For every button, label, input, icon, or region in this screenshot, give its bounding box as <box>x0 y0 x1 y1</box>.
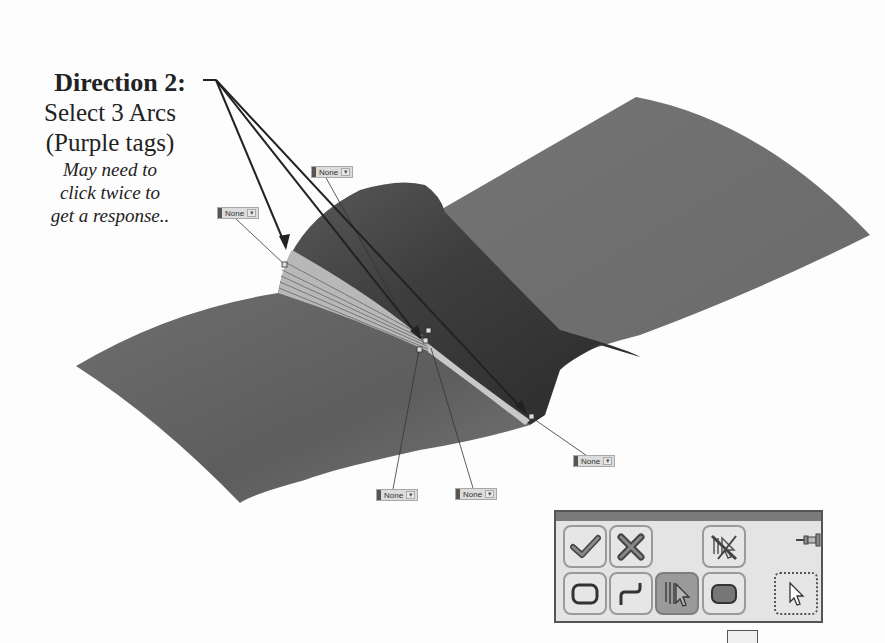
ok-button[interactable] <box>563 525 607 568</box>
toolbar-titlebar[interactable] <box>556 512 821 521</box>
tag-label: None <box>580 457 603 466</box>
region-button[interactable] <box>702 572 746 615</box>
chevron-down-icon[interactable]: ▼ <box>247 209 256 217</box>
connector-tag-bottom-left[interactable]: None ▼ <box>376 489 418 501</box>
callout-note-3: get a response.. <box>0 204 220 227</box>
checkmark-icon <box>569 534 601 560</box>
tag-label: None <box>224 209 247 218</box>
tag-color-swatch <box>218 208 222 218</box>
connector-tag-left[interactable]: None ▼ <box>217 207 259 219</box>
pointer-icon <box>783 579 809 609</box>
no-select-icon <box>708 532 740 562</box>
connector-tag-right[interactable]: None ▼ <box>573 455 615 467</box>
connector-tag-top[interactable]: None ▼ <box>311 166 353 178</box>
callout-line-2: (Purple tags) <box>0 128 220 158</box>
tag-color-swatch <box>377 490 381 500</box>
chevron-down-icon[interactable]: ▼ <box>485 490 494 498</box>
x-icon <box>616 533 646 561</box>
tag-color-swatch <box>574 456 578 466</box>
partial-button-below-toolbar <box>727 630 758 643</box>
standard-select-button[interactable] <box>774 572 818 615</box>
connector-tag-bottom-mid[interactable]: None ▼ <box>455 488 497 500</box>
chevron-down-icon[interactable]: ▼ <box>341 168 350 176</box>
callout-title: Direction 2: <box>10 68 230 98</box>
direction-2-callout: Direction 2: Select 3 Arcs (Purple tags)… <box>0 68 220 227</box>
multi-select-icon <box>661 578 693 610</box>
callout-note-1: May need to <box>0 158 220 181</box>
chevron-down-icon[interactable]: ▼ <box>603 457 612 465</box>
region-icon <box>709 582 739 606</box>
closed-loop-icon <box>570 582 600 606</box>
tag-label: None <box>318 168 341 177</box>
selection-manager-button[interactable] <box>655 572 699 615</box>
cancel-button[interactable] <box>609 525 653 568</box>
callout-line-1: Select 3 Arcs <box>0 98 220 128</box>
tag-label: None <box>383 491 406 500</box>
open-loop-icon <box>616 580 646 608</box>
chevron-down-icon[interactable]: ▼ <box>406 491 415 499</box>
closed-loop-button[interactable] <box>563 572 607 615</box>
open-loop-button[interactable] <box>609 572 653 615</box>
selection-toolbar <box>554 510 823 623</box>
tag-label: None <box>462 490 485 499</box>
tag-color-swatch <box>312 167 316 177</box>
callout-note-2: click twice to <box>0 181 220 204</box>
clear-selections-button[interactable] <box>702 525 746 568</box>
pin-icon[interactable] <box>796 532 822 552</box>
tag-color-swatch <box>456 489 460 499</box>
